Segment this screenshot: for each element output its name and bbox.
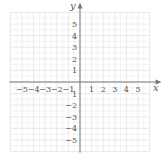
y-axis-label: y: [69, 0, 76, 11]
x-tick-labels: −5−4−3−2−112345: [16, 85, 140, 94]
x-tick-label: 3: [112, 85, 117, 94]
x-tick-label: −3: [39, 85, 51, 94]
coordinate-plane: x y −5−4−3−2−112345 543211−2−3−4−5: [0, 0, 165, 157]
x-axis-label: x: [153, 82, 159, 93]
x-tick-label: 2: [101, 85, 106, 94]
y-tick-label: 1: [72, 90, 77, 99]
y-tick-label: −2: [65, 101, 77, 110]
y-tick-label: −3: [65, 113, 77, 122]
y-tick-label: −4: [65, 124, 77, 133]
x-tick-label: −5: [16, 85, 28, 94]
y-axis-arrow-icon: [78, 2, 83, 8]
axes: [9, 2, 161, 152]
y-tick-label: 5: [72, 20, 77, 29]
y-tick-label: 3: [72, 43, 77, 52]
y-tick-label: −5: [65, 136, 77, 145]
x-tick-label: −2: [51, 85, 63, 94]
x-tick-label: 5: [135, 85, 140, 94]
x-tick-label: −4: [28, 85, 40, 94]
y-tick-label: 2: [72, 55, 77, 64]
x-tick-label: 1: [89, 85, 94, 94]
y-tick-label: 1: [72, 66, 77, 75]
x-tick-label: 4: [124, 85, 129, 94]
y-tick-label: 4: [72, 32, 77, 41]
